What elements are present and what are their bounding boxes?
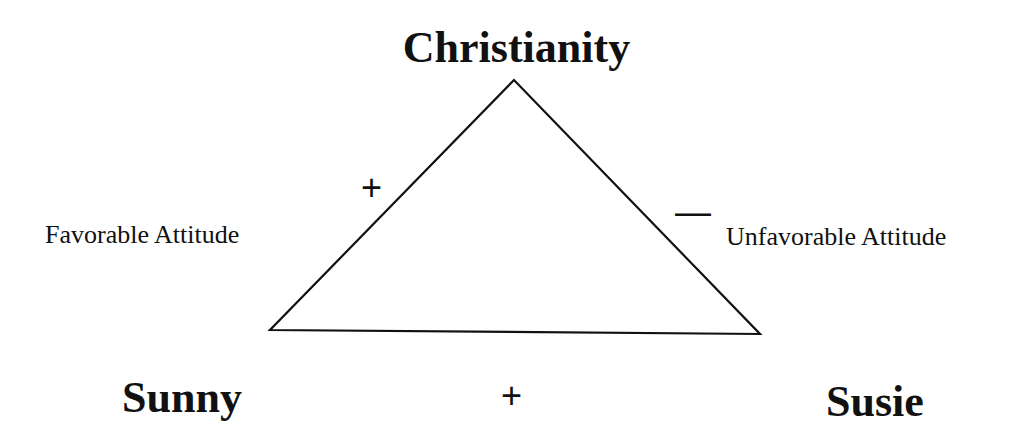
plus-sign-left-edge: + xyxy=(361,170,382,206)
edge-label-unfavorable: Unfavorable Attitude xyxy=(726,222,946,252)
minus-sign-right-edge: — xyxy=(675,194,711,230)
node-sunny: Sunny xyxy=(122,372,242,423)
plus-sign-bottom-edge: + xyxy=(501,378,522,414)
edge-label-favorable: Favorable Attitude xyxy=(45,220,239,250)
node-christianity: Christianity xyxy=(0,22,1033,73)
node-susie: Susie xyxy=(826,376,924,427)
